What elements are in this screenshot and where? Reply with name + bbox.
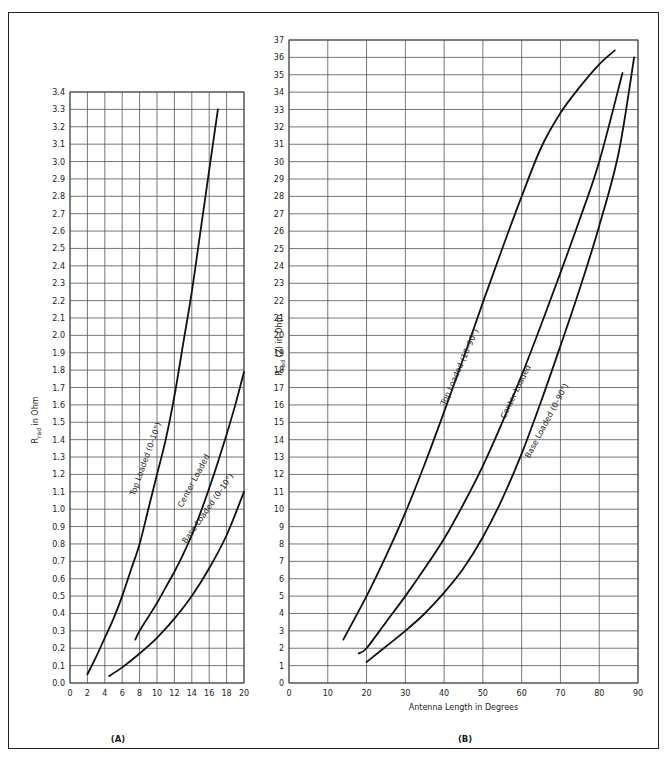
y-tick-label: 0 <box>279 679 284 688</box>
y-tick-label: 1.5 <box>52 418 65 427</box>
series-curve <box>359 73 623 653</box>
y-tick-label: 2.5 <box>52 244 65 253</box>
series-label: Top Loaded (10–90°) <box>438 328 480 408</box>
y-tick-label: 30 <box>274 158 284 167</box>
y-tick-label: 35 <box>274 71 284 80</box>
x-tick-label: 14 <box>187 689 197 698</box>
y-tick-label: 3.0 <box>52 158 65 167</box>
y-tick-label: 16 <box>274 401 284 410</box>
chart-b: 0123456789101112131415161718192021222324… <box>274 36 643 744</box>
y-tick-label: 15 <box>274 418 284 427</box>
y-tick-label: 17 <box>274 384 284 393</box>
y-tick-label: 37 <box>274 36 284 45</box>
y-tick-label: 3.2 <box>52 123 65 132</box>
y-tick-label: 0.2 <box>52 644 65 653</box>
x-tick-label: 18 <box>222 689 232 698</box>
y-tick-label: 1.9 <box>52 349 65 358</box>
y-tick-label: 2.7 <box>52 210 65 219</box>
y-tick-label: 8 <box>279 540 284 549</box>
x-tick-label: 8 <box>137 689 142 698</box>
series-label: Center Loaded <box>499 364 533 421</box>
y-tick-label: 6 <box>279 575 284 584</box>
y-tick-label: 0.7 <box>52 557 65 566</box>
series-label: Top Loaded (0–10°) <box>128 421 163 498</box>
y-tick-label: 1.4 <box>52 436 65 445</box>
y-tick-label: 3 <box>279 627 284 636</box>
y-tick-label: 0.1 <box>52 662 65 671</box>
x-tick-label: 0 <box>286 689 291 698</box>
y-tick-label: 0.5 <box>52 592 65 601</box>
x-tick-label: 70 <box>555 689 565 698</box>
series-label: Center Loaded <box>176 453 211 509</box>
y-tick-label: 0.4 <box>52 609 65 618</box>
x-tick-label: 40 <box>439 689 449 698</box>
y-tick-label: 2.8 <box>52 192 65 201</box>
y-tick-label: 2.2 <box>52 297 65 306</box>
y-tick-label: 7 <box>279 557 284 566</box>
series-label: Base Loaded (0–90°) <box>523 382 570 460</box>
y-tick-label: 25 <box>274 245 284 254</box>
series-curve <box>343 50 614 639</box>
x-tick-label: 6 <box>120 689 125 698</box>
y-tick-label: 2 <box>279 644 284 653</box>
y-axis-label: Rrad in Ohm <box>31 396 42 443</box>
grid <box>70 92 244 683</box>
y-tick-label: 1 <box>279 662 284 671</box>
y-tick-label: 1.0 <box>52 505 65 514</box>
y-tick-label: 1.1 <box>52 488 65 497</box>
x-axis-ticks: 0102030405060708090 <box>286 689 643 698</box>
x-tick-label: 50 <box>478 689 488 698</box>
y-tick-label: 0.9 <box>52 523 65 532</box>
y-tick-label: 2.3 <box>52 279 65 288</box>
chart-caption: (B) <box>458 734 472 744</box>
y-tick-label: 11 <box>274 488 284 497</box>
y-tick-label: 34 <box>274 88 284 97</box>
series-curve <box>367 57 635 662</box>
y-tick-label: 1.6 <box>52 401 65 410</box>
y-tick-label: 9 <box>279 523 284 532</box>
y-tick-label: 0.0 <box>52 679 65 688</box>
series-curve <box>87 109 218 674</box>
y-tick-label: 3.1 <box>52 140 65 149</box>
y-tick-label: 4 <box>279 609 284 618</box>
x-tick-label: 16 <box>204 689 214 698</box>
y-tick-label: 13 <box>274 453 284 462</box>
y-tick-label: 2.6 <box>52 227 65 236</box>
y-tick-label: 31 <box>274 140 284 149</box>
y-tick-label: 10 <box>274 505 284 514</box>
x-tick-label: 12 <box>169 689 179 698</box>
x-tick-label: 90 <box>633 689 643 698</box>
x-tick-label: 20 <box>239 689 249 698</box>
chart-a: 0.00.10.20.30.40.50.60.70.80.91.01.11.21… <box>31 88 249 744</box>
y-tick-label: 1.7 <box>52 384 65 393</box>
y-tick-label: 12 <box>274 470 284 479</box>
y-tick-label: 28 <box>274 192 284 201</box>
y-tick-label: 32 <box>274 123 284 132</box>
y-tick-label: 2.9 <box>52 175 65 184</box>
y-tick-label: 33 <box>274 106 284 115</box>
y-tick-label: 23 <box>274 279 284 288</box>
y-tick-label: 14 <box>274 436 284 445</box>
y-tick-label: 0.6 <box>52 575 65 584</box>
y-axis-ticks: 0.00.10.20.30.40.50.60.70.80.91.01.11.21… <box>52 88 65 688</box>
x-axis-label: Antenna Length in Degrees <box>409 703 518 712</box>
y-tick-label: 3.3 <box>52 105 65 114</box>
y-tick-label: 22 <box>274 297 284 306</box>
x-tick-label: 4 <box>102 689 107 698</box>
y-tick-label: 2.1 <box>52 314 65 323</box>
y-tick-label: 0.3 <box>52 627 65 636</box>
y-tick-label: 1.8 <box>52 366 65 375</box>
chart-caption: (A) <box>111 734 125 744</box>
x-axis-ticks: 02468101214161820 <box>67 689 249 698</box>
y-tick-label: 29 <box>274 175 284 184</box>
x-tick-label: 10 <box>152 689 162 698</box>
x-tick-label: 10 <box>323 689 333 698</box>
y-tick-label: 2.0 <box>52 331 65 340</box>
y-tick-label: 27 <box>274 210 284 219</box>
y-tick-label: 1.3 <box>52 453 65 462</box>
x-tick-label: 60 <box>517 689 527 698</box>
y-tick-label: 0.8 <box>52 540 65 549</box>
y-tick-label: 1.2 <box>52 470 65 479</box>
y-tick-label: 24 <box>274 262 284 271</box>
x-tick-label: 0 <box>67 689 72 698</box>
